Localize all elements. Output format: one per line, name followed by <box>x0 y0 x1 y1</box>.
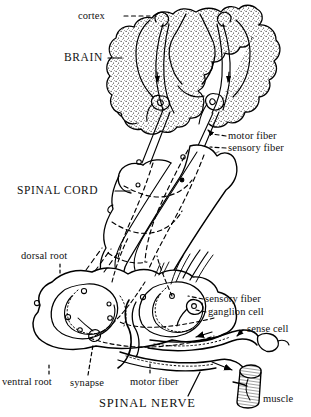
label-ventral-root: ventral root <box>2 377 52 388</box>
label-spinal-nerve: SPINAL NERVE <box>99 397 196 410</box>
label-cortex: cortex <box>78 11 105 22</box>
label-motor-fiber-upper: motor fiber <box>228 131 277 142</box>
reflex-arc-illustration <box>0 0 311 417</box>
label-brain: BRAIN <box>64 52 103 64</box>
sense-cell-tip <box>278 340 289 345</box>
label-sense-cell: sense cell <box>247 324 289 335</box>
label-synapse: synapse <box>70 378 104 389</box>
brain-group <box>33 5 289 408</box>
muscle-body <box>237 365 261 408</box>
spinal-cord-cap-left-edge <box>143 160 171 165</box>
leader-spinal-nerve <box>188 372 200 396</box>
sensory-tract-arrow-right <box>228 72 229 82</box>
relay-nucleus-right-inner <box>210 99 215 105</box>
dorsal-root-bundle <box>183 250 200 278</box>
label-muscle: muscle <box>263 394 293 405</box>
sense-cell-body <box>257 334 278 352</box>
spinal-nerve-branch-motor <box>120 352 246 372</box>
label-sensory-fiber-lower: sensory fiber <box>205 294 261 305</box>
leader-synapse <box>88 345 93 375</box>
spinal-cord-cap-left <box>118 163 143 193</box>
label-motor-fiber-lower: motor fiber <box>130 377 179 388</box>
leader-sensory-upper <box>210 147 226 148</box>
figure-canvas: cortex BRAIN motor fiber sensory fiber S… <box>0 0 311 417</box>
label-ganglion-cell: ganglion cell <box>208 307 264 318</box>
label-dorsal-root: dorsal root <box>21 251 67 262</box>
leader-motor-upper <box>212 134 226 136</box>
label-spinal-cord: SPINAL CORD <box>17 185 98 197</box>
brain-left-lobes <box>107 26 137 124</box>
label-sensory-fiber-upper: sensory fiber <box>228 143 284 154</box>
